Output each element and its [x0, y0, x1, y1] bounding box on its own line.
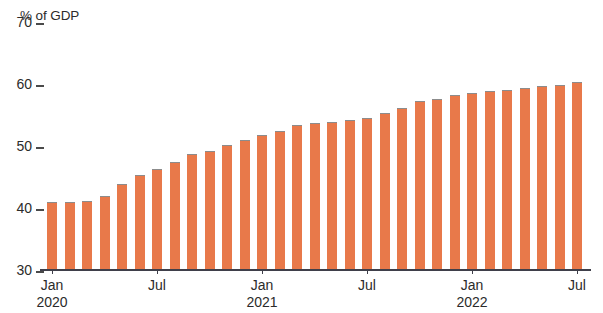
bar — [310, 123, 320, 270]
bar — [292, 125, 302, 270]
bar — [205, 151, 215, 270]
bar — [117, 184, 127, 270]
bar — [47, 202, 57, 270]
bar — [187, 154, 197, 270]
y-axis-tick-label: 40 — [0, 200, 44, 216]
bar — [415, 101, 425, 270]
bar — [275, 131, 285, 271]
bar — [450, 95, 460, 270]
bar — [222, 145, 232, 270]
bar-series — [47, 22, 580, 270]
x-axis-tick-label: Jul — [568, 277, 586, 294]
x-axis-tick-mark — [262, 269, 263, 274]
bar — [520, 88, 530, 270]
x-axis-tick-mark — [157, 269, 158, 274]
bar-chart: % of GDP 7060504030 Jan2020JulJan2021Jul… — [0, 0, 603, 313]
bar — [100, 196, 110, 270]
bar — [572, 82, 582, 270]
bar — [257, 135, 267, 270]
y-tick-dash-icon — [36, 23, 44, 25]
plot-area — [47, 22, 580, 270]
x-axis-tick-mark — [52, 269, 53, 274]
bar — [345, 120, 355, 270]
y-tick-dash-icon — [36, 85, 44, 87]
bar — [537, 86, 547, 270]
x-axis-tick-mark — [577, 269, 578, 274]
bar — [170, 162, 180, 270]
bar — [240, 140, 250, 270]
bar — [65, 202, 75, 270]
x-axis-tick-label: Jan2022 — [456, 277, 487, 311]
bar — [380, 113, 390, 270]
y-tick-dash-icon — [36, 147, 44, 149]
x-axis-tick-label: Jan2020 — [36, 277, 67, 311]
bar — [135, 175, 145, 270]
y-axis-tick-label: 50 — [0, 138, 44, 154]
bar — [555, 85, 565, 270]
y-axis-tick-label: 70 — [0, 14, 44, 30]
x-axis-tick-label: Jul — [148, 277, 166, 294]
bar — [152, 169, 162, 270]
bar — [327, 122, 337, 270]
x-axis-tick-mark — [472, 269, 473, 274]
y-tick-dash-icon — [36, 209, 44, 211]
bar — [432, 99, 442, 270]
x-axis-tick-label: Jul — [358, 277, 376, 294]
bar — [82, 201, 92, 270]
y-tick-dash-icon — [36, 271, 44, 273]
y-axis-tick-label: 60 — [0, 76, 44, 92]
x-axis-tick-mark — [367, 269, 368, 274]
x-axis-line — [40, 269, 591, 271]
bar — [362, 118, 372, 270]
bar — [485, 91, 495, 270]
bar — [502, 90, 512, 270]
y-axis-tick-label: 30 — [0, 262, 44, 278]
bar — [467, 93, 477, 270]
x-axis-tick-label: Jan2021 — [246, 277, 277, 311]
bar — [397, 108, 407, 270]
